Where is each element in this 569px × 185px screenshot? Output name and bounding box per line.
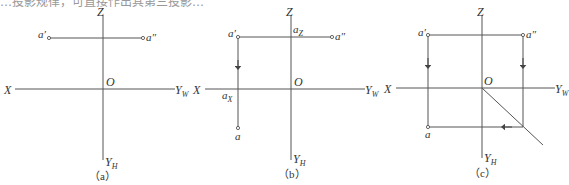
yw-axis-label: YW bbox=[555, 82, 569, 98]
x-axis-label: X bbox=[3, 83, 12, 97]
point-a-prime bbox=[47, 36, 50, 39]
yh-axis-label: YH bbox=[484, 151, 498, 167]
point-a-double-prime bbox=[521, 33, 524, 36]
a-double-prime-label: a″ bbox=[335, 30, 346, 42]
z-axis-label: Z bbox=[286, 5, 293, 19]
45-degree-line bbox=[482, 88, 543, 145]
point-a-double-prime bbox=[330, 35, 333, 38]
caption-b: （b） bbox=[278, 168, 306, 180]
yh-axis-label: YH bbox=[105, 155, 119, 171]
x-axis-label: X bbox=[383, 82, 392, 96]
a-prime-label: a′ bbox=[418, 26, 427, 38]
point-a-prime bbox=[426, 33, 429, 36]
projection-diagrams: Z X O YW YH a′ a″ （a） Z X O YW YH a′ a″ … bbox=[0, 0, 569, 185]
z-axis-label: Z bbox=[97, 5, 104, 19]
panel-c: Z X O YW YH a′ a″ a （c） bbox=[383, 5, 569, 179]
panel-b: Z X O YW YH a′ a″ a aX aZ （b） bbox=[192, 5, 380, 180]
a-label: a bbox=[425, 128, 431, 140]
caption-a: （a） bbox=[89, 170, 116, 182]
a-prime-label: a′ bbox=[228, 27, 237, 39]
point-a-prime bbox=[236, 35, 239, 38]
x-axis-label: X bbox=[192, 83, 201, 97]
ax-label: aX bbox=[222, 89, 234, 104]
caption-c: （c） bbox=[469, 167, 496, 179]
origin-label: O bbox=[484, 74, 493, 88]
panel-a: Z X O YW YH a′ a″ （a） bbox=[3, 5, 190, 182]
yh-axis-label: YH bbox=[293, 152, 307, 168]
yw-axis-label: YW bbox=[365, 83, 380, 99]
yw-axis-label: YW bbox=[175, 83, 190, 99]
a-prime-label: a′ bbox=[38, 28, 47, 40]
a-double-prime-label: a″ bbox=[526, 28, 537, 40]
a-double-prime-label: a″ bbox=[146, 31, 157, 43]
z-axis-label: Z bbox=[477, 5, 484, 19]
point-a-double-prime bbox=[141, 36, 144, 39]
origin-label: O bbox=[106, 75, 115, 89]
az-label: aZ bbox=[293, 23, 304, 38]
a-label: a bbox=[235, 130, 241, 142]
origin-label: O bbox=[294, 75, 303, 89]
